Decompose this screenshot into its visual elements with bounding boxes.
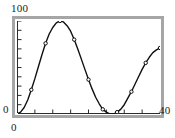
plot-area (17, 21, 160, 114)
y-axis-max-label: 100 (11, 3, 28, 14)
x-axis-max-label: 40 (159, 105, 170, 116)
data-curve (17, 21, 160, 114)
y-axis-min-label: 0 (3, 104, 9, 115)
x-axis-min-label: 0 (11, 122, 17, 133)
chart-figure: 100 0 0 40 (0, 0, 175, 138)
plot-canvas (17, 21, 160, 114)
